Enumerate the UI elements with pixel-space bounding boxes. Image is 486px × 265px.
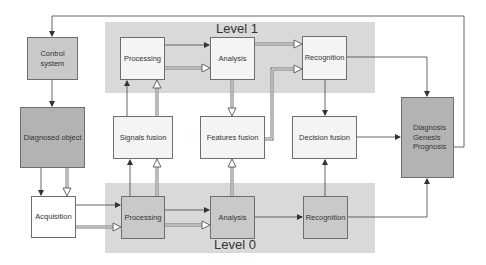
level0-processing-label: Processing (124, 213, 161, 222)
output-line-genesis: Genesis (413, 133, 441, 142)
level0-analysis-label: Analysis (219, 213, 247, 222)
level0-recognition-node: Recognition (303, 196, 348, 239)
diagnosis-genesis-prognosis-node: Diagnosis Genesis Prognosis (401, 97, 454, 178)
control-system-label: Control system (28, 49, 77, 68)
level1-recognition-node: Recognition (302, 36, 347, 80)
signals-fusion-node: Signals fusion (113, 116, 173, 159)
level1-processing-node: Processing (120, 37, 165, 80)
diagnosed-object-node: Diagnosed object (20, 107, 85, 168)
output-line-diagnosis: Diagnosis (413, 123, 446, 132)
level1-recognition-label: Recognition (305, 53, 345, 62)
decision-fusion-node: Decision fusion (292, 116, 357, 159)
diagnosed-object-label: Diagnosed object (24, 133, 82, 142)
level0-processing-node: Processing (121, 196, 165, 239)
output-line-prognosis: Prognosis (413, 142, 446, 151)
level1-processing-label: Processing (124, 54, 161, 63)
level0-recognition-label: Recognition (306, 213, 346, 222)
acquisition-node: Acquisition (31, 196, 76, 238)
level1-analysis-label: Analysis (219, 54, 247, 63)
acquisition-label: Acquisition (35, 212, 71, 221)
level1-analysis-node: Analysis (210, 37, 255, 80)
signals-fusion-label: Signals fusion (120, 133, 167, 142)
features-fusion-node: Features fusion (200, 116, 265, 159)
decision-fusion-label: Decision fusion (299, 133, 350, 142)
level0-analysis-node: Analysis (210, 196, 255, 239)
control-system-node: Control system (27, 37, 78, 80)
features-fusion-label: Features fusion (207, 133, 259, 142)
